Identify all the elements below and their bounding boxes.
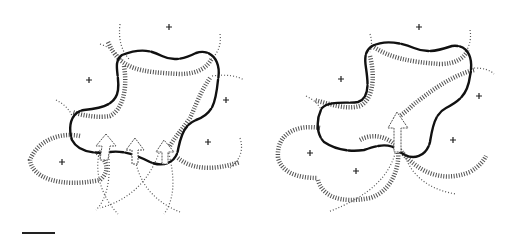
hatch-arc	[168, 78, 210, 150]
plus-icon	[223, 97, 229, 103]
plus-marker-group	[59, 24, 229, 165]
hatch-arc	[178, 158, 240, 168]
panel-right	[278, 24, 494, 212]
arrow-up-icon	[126, 138, 144, 164]
plus-icon	[353, 168, 359, 174]
hatch-arc	[318, 150, 398, 200]
plus-icon	[450, 137, 456, 143]
plus-icon	[205, 139, 211, 145]
hatch-arc	[372, 46, 468, 64]
panel-left	[30, 24, 244, 214]
plus-icon	[59, 159, 65, 165]
plus-icon	[166, 24, 172, 30]
dotted-arc	[56, 100, 72, 116]
plus-icon	[86, 77, 92, 83]
dotted-arc	[328, 150, 396, 212]
dotted-arc	[474, 68, 494, 74]
hatch-arc	[400, 150, 486, 176]
plus-icon	[416, 24, 422, 30]
plus-icon	[338, 76, 344, 82]
figure-canvas	[0, 0, 508, 238]
plus-icon	[476, 93, 482, 99]
plus-icon	[307, 150, 313, 156]
region-outline	[70, 51, 219, 165]
dotted-arc	[404, 152, 456, 194]
dotted-arc	[100, 150, 160, 208]
dotted-arc	[212, 75, 244, 80]
hatch-arc	[30, 135, 106, 183]
hatch-arc	[278, 127, 320, 178]
dotted-arc	[370, 34, 372, 52]
